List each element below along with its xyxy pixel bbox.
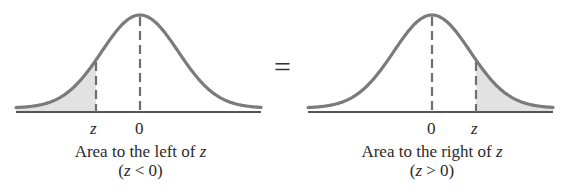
right-bell-curve bbox=[308, 15, 553, 108]
right-normal-curve-panel bbox=[308, 15, 553, 112]
right-tail-shaded-area bbox=[476, 60, 553, 112]
left-caption-text: Area to the left of bbox=[75, 142, 200, 161]
left-condition-rest: < 0) bbox=[131, 161, 163, 180]
right-caption: Area to the right of z (z > 0) bbox=[286, 142, 562, 180]
right-caption-text: Area to the right of bbox=[361, 142, 496, 161]
right-tick-z-label: z bbox=[471, 120, 478, 138]
left-tick-z-label: z bbox=[90, 120, 97, 138]
right-condition: (z > 0) bbox=[286, 161, 562, 180]
left-normal-curve-panel bbox=[16, 15, 261, 112]
left-tail-shaded-area bbox=[16, 60, 96, 112]
left-bell-curve bbox=[16, 15, 261, 108]
left-tick-zero-label: 0 bbox=[135, 120, 144, 138]
right-condition-rest: > 0) bbox=[422, 161, 454, 180]
left-caption-line1: Area to the left of z bbox=[0, 142, 281, 161]
right-caption-line1: Area to the right of z bbox=[286, 142, 562, 161]
left-caption: Area to the left of z (z < 0) bbox=[0, 142, 281, 180]
left-caption-var: z bbox=[200, 142, 207, 161]
right-tick-zero-label: 0 bbox=[427, 120, 436, 138]
right-caption-var: z bbox=[496, 142, 503, 161]
equals-sign: = bbox=[274, 52, 291, 82]
left-condition: (z < 0) bbox=[0, 161, 281, 180]
left-condition-var: z bbox=[124, 161, 131, 180]
